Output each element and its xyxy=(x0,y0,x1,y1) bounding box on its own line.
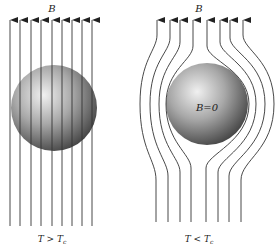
condition-label-right: T < Tc xyxy=(185,234,214,245)
right-panel-superconducting-state: B B=0 T < Tc xyxy=(140,3,274,245)
inside-field-label: B=0 xyxy=(195,102,219,113)
field-label-b-right: B xyxy=(194,3,202,14)
meissner-effect-diagram: B T > Tc B B=0 xyxy=(0,0,275,247)
field-line xyxy=(140,20,157,222)
field-label-b-left: B xyxy=(47,3,55,14)
condition-label-left: T > Tc xyxy=(38,234,67,245)
sphere-normal xyxy=(11,65,97,151)
left-panel-normal-state: B T > Tc xyxy=(10,3,97,245)
